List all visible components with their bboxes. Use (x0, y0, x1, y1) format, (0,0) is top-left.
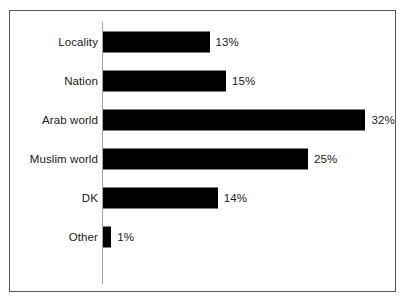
bar-fill (103, 31, 210, 52)
bar-row: DK 14% (10, 178, 397, 217)
bar-value-label: 14% (224, 192, 247, 204)
bar-value-label: 25% (314, 153, 337, 165)
bar-track (103, 31, 210, 52)
bar-value-label: 32% (371, 114, 394, 126)
bar-category-label: Nation (64, 75, 98, 87)
bar-fill (103, 187, 218, 208)
bar-category-label: Locality (58, 36, 98, 48)
bar-track (103, 148, 308, 169)
bar-track (103, 226, 111, 247)
bar-value-label: 15% (232, 75, 255, 87)
bar-row: Muslim world 25% (10, 139, 397, 178)
bar-track (103, 187, 218, 208)
bar-row: Other 1% (10, 217, 397, 256)
bar-fill (103, 70, 226, 91)
chart-figure: Locality 13% Nation 15% Arab world 32% (0, 0, 405, 303)
chart-frame-border: Locality 13% Nation 15% Arab world 32% (9, 10, 396, 292)
bar-category-label: Arab world (42, 114, 98, 126)
bar-row: Arab world 32% (10, 100, 397, 139)
bar-fill (103, 148, 308, 169)
bar-track (103, 109, 365, 130)
plot-area: Locality 13% Nation 15% Arab world 32% (10, 11, 397, 293)
bar-fill (103, 109, 365, 130)
bar-row: Nation 15% (10, 61, 397, 100)
bar-category-label: Muslim world (30, 153, 98, 165)
bar-fill (103, 226, 111, 247)
bar-row: Locality 13% (10, 22, 397, 61)
bar-value-label: 1% (117, 231, 134, 243)
bar-category-label: DK (82, 192, 98, 204)
bar-value-label: 13% (216, 36, 239, 48)
bar-track (103, 70, 226, 91)
bar-category-label: Other (69, 231, 98, 243)
